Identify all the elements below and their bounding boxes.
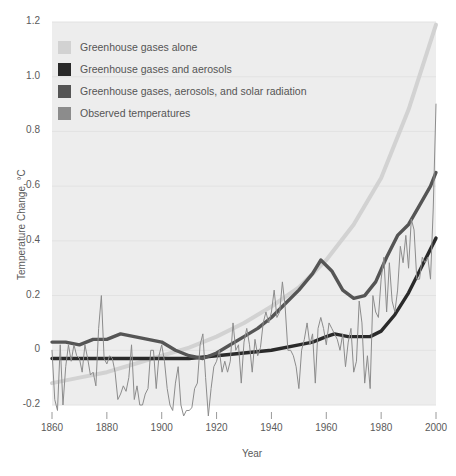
x-axis-tick-label: 1940 — [251, 422, 291, 433]
legend-item: Greenhouse gases alone — [58, 36, 306, 58]
legend-swatch-icon — [58, 85, 71, 98]
legend-swatch-icon — [58, 41, 71, 54]
y-axis-tick-label: 1.0 — [0, 70, 40, 81]
y-axis-tick-label: 0 — [0, 343, 40, 354]
legend-item-label: Greenhouse gases and aerosols — [80, 63, 232, 75]
x-axis-tick-label: 1980 — [361, 422, 401, 433]
legend-swatch-icon — [58, 63, 71, 76]
legend-item: Observed temperatures — [58, 102, 306, 124]
x-axis-label: Year — [24, 448, 456, 459]
legend-item-label: Greenhouse gases alone — [80, 41, 197, 53]
legend-item: Greenhouse gases, aerosols, and solar ra… — [58, 80, 306, 102]
y-axis-tick-label: -0.2 — [0, 398, 40, 409]
y-axis-tick-label: 0.2 — [0, 289, 40, 300]
series-line-2 — [52, 172, 436, 358]
chart-legend: Greenhouse gases aloneGreenhouse gases a… — [58, 36, 306, 124]
temperature-change-chart: -0.200.20.40.60.81.01.2 1860188019001920… — [0, 0, 456, 476]
y-axis-tick-label: 1.2 — [0, 15, 40, 26]
x-axis-tick-label: 1960 — [306, 422, 346, 433]
series-line-3 — [52, 104, 436, 416]
legend-item: Greenhouse gases and aerosols — [58, 58, 306, 80]
axis-ticks — [52, 412, 436, 419]
x-axis-tick-label: 1860 — [32, 422, 72, 433]
x-axis-tick-label: 2000 — [416, 422, 456, 433]
y-axis-label: Temperature Change, °C — [16, 169, 27, 280]
x-axis-tick-label: 1900 — [142, 422, 182, 433]
x-axis-tick-label: 1880 — [87, 422, 127, 433]
y-axis-tick-label: 0.8 — [0, 124, 40, 135]
legend-item-label: Observed temperatures — [80, 107, 190, 119]
x-axis-tick-label: 1920 — [197, 422, 237, 433]
legend-item-label: Greenhouse gases, aerosols, and solar ra… — [80, 85, 306, 97]
legend-swatch-icon — [58, 107, 71, 120]
